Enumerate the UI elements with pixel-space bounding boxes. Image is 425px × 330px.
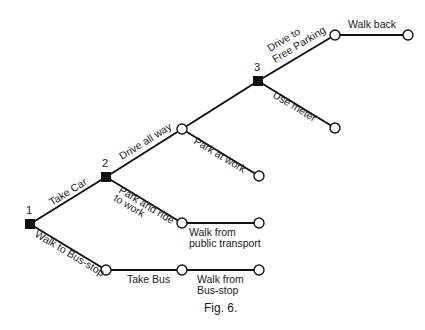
edge-drive-to-node3 <box>182 81 258 129</box>
label-use-meter: Use meter <box>271 88 319 123</box>
node-drive-all-way <box>177 124 187 134</box>
decision-node-2 <box>101 172 111 182</box>
decision-node-3-label: 3 <box>254 61 260 73</box>
decision-tree-diagram: 1 2 3 Take Car Walk to Bus-stop Drive al… <box>0 0 425 330</box>
label-walk-public-2: public transport <box>189 237 261 249</box>
figure-caption: Fig. 6. <box>204 301 237 315</box>
label-drive-all-way: Drive all way <box>117 120 174 162</box>
node-walk-back-end <box>403 30 413 40</box>
label-park-at-work: Park at work <box>192 134 249 175</box>
node-park-and-ride <box>177 218 187 228</box>
label-walk-to-bus-stop: Walk to Bus-stop <box>33 227 107 278</box>
node-park-at-work-end <box>254 171 264 181</box>
label-walk-back: Walk back <box>348 18 397 30</box>
node-walk-bus-stop-end <box>254 265 264 275</box>
label-walk-bus-stop-2: Bus-stop <box>197 284 239 296</box>
decision-node-3 <box>253 76 263 86</box>
node-walk-public-end <box>254 218 264 228</box>
decision-node-1 <box>25 219 35 229</box>
node-take-bus <box>177 265 187 275</box>
decision-node-1-label: 1 <box>26 204 32 216</box>
node-free-parking <box>330 30 340 40</box>
decision-node-2-label: 2 <box>102 157 108 169</box>
label-take-bus: Take Bus <box>127 273 170 285</box>
node-use-meter-end <box>330 123 340 133</box>
